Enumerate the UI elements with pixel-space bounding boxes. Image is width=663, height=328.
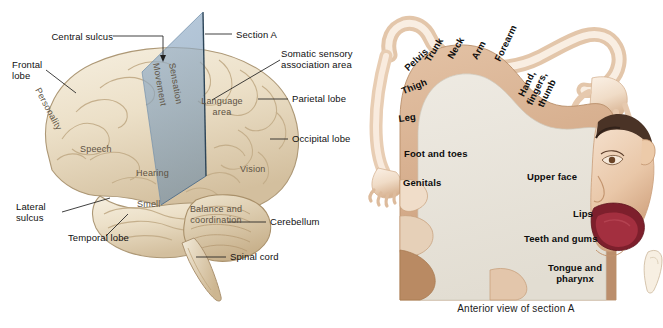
region-label-language-area: Language area — [198, 96, 246, 118]
label-occipital-lobe: Occipital lobe — [292, 133, 350, 144]
region-label-balance-and-coordination: Balance and coordination — [180, 204, 252, 226]
homunculus-caption: Anterior view of section A — [416, 303, 616, 314]
label-section-a: Section A — [236, 29, 277, 40]
label-somatic-sensory-association-area: Somatic sensory association area — [281, 48, 353, 70]
label-spinal-cord: Spinal cord — [230, 251, 279, 262]
label-leg: Leg — [398, 111, 416, 124]
brain-lateral-view-panel: Central sulcus Section A Somatic sensory… — [0, 0, 370, 328]
label-frontal-lobe: Frontal lobe — [12, 59, 42, 81]
homunculus-face — [591, 114, 655, 256]
region-label-vision: Vision — [240, 164, 266, 175]
label-lips: Lips — [573, 208, 593, 219]
label-teeth-and-gums: Teeth and gums — [524, 233, 598, 244]
anatomy-figure: Central sulcus Section A Somatic sensory… — [0, 0, 663, 328]
label-lateral-sulcus: Lateral sulcus — [16, 201, 46, 223]
label-cerebellum: Cerebellum — [270, 216, 320, 227]
label-tongue-and-pharynx: Tongue and pharynx — [544, 262, 606, 284]
label-foot-and-toes: Foot and toes — [404, 148, 468, 159]
region-label-hearing: Hearing — [136, 168, 169, 179]
region-label-speech: Speech — [80, 144, 112, 155]
label-central-sulcus: Central sulcus — [18, 31, 113, 42]
homunculus-tooth — [644, 250, 662, 293]
homunculus-illustration — [370, 0, 663, 328]
homunculus-leg-foot — [370, 56, 402, 206]
label-upper-face: Upper face — [527, 171, 577, 182]
label-parietal-lobe: Parietal lobe — [292, 93, 346, 104]
sensory-homunculus-panel: Pelvis Trunk Neck Arm Forearm Thigh Leg … — [370, 0, 663, 328]
region-label-smell: Smell — [137, 199, 161, 210]
label-temporal-lobe: Temporal lobe — [68, 232, 129, 243]
label-genitals: Genitals — [403, 177, 441, 188]
